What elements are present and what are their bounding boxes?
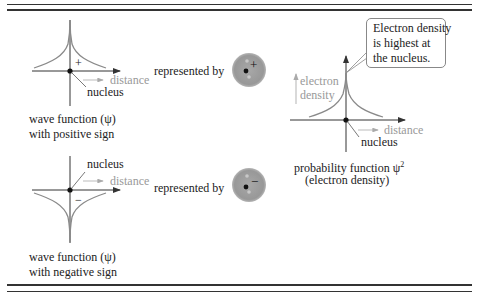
nucleus-label: nucleus xyxy=(87,85,124,99)
distance-label: distance xyxy=(110,174,149,188)
positive-caption-line1: wave function (ψ) xyxy=(29,112,116,126)
y-axis-label-line1: electron xyxy=(300,74,339,88)
represented-by-label: represented by xyxy=(154,64,224,78)
orbital-positive-sign: + xyxy=(250,58,257,72)
nucleus-label: nucleus xyxy=(361,135,398,149)
y-axis-label-line2: density xyxy=(300,88,335,102)
callout-line2: is highest at xyxy=(373,36,445,51)
negative-caption-line1: wave function (ψ) xyxy=(29,250,116,264)
positive-caption-line2: with positive sign xyxy=(29,127,114,141)
nucleus-label: nucleus xyxy=(87,157,124,171)
probability-caption-superscript: 2 xyxy=(400,160,404,169)
represented-by-label: represented by xyxy=(154,181,224,195)
orbital-negative xyxy=(232,168,266,202)
probability-caption-line2: (electron density) xyxy=(305,173,389,187)
callout-line1: Electron density xyxy=(373,21,445,36)
callout-line3: the nucleus. xyxy=(373,51,445,66)
orbital-positive xyxy=(232,53,266,87)
callout-box: Electron density is highest at the nucle… xyxy=(366,18,446,68)
negative-sign-label: − xyxy=(75,193,82,207)
positive-sign-label: + xyxy=(75,56,82,70)
orbital-negative-sign: − xyxy=(251,175,258,189)
negative-caption-line2: with negative sign xyxy=(29,265,117,279)
